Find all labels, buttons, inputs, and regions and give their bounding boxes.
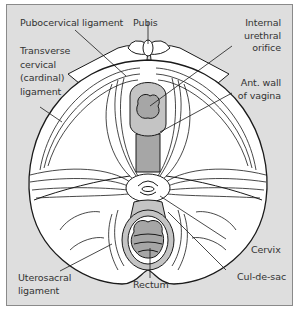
label-line: Internal xyxy=(244,17,281,30)
label-line: urethral xyxy=(244,30,281,43)
label-line: of vagina xyxy=(238,90,281,103)
label-line: (cardinal) xyxy=(20,71,70,85)
urethral-orifice xyxy=(137,94,160,118)
anterior-vaginal-wall xyxy=(136,134,160,172)
label-line: Transverse xyxy=(20,44,70,58)
label-line: cervical xyxy=(20,58,70,72)
label-pubocervical-ligament: Pubocervical ligament xyxy=(20,17,123,30)
label-pubis: Pubis xyxy=(133,17,158,30)
label-cul-de-sac: Cul-de-sac xyxy=(237,271,286,284)
label-rectum: Rectum xyxy=(133,279,169,292)
label-line: ligament xyxy=(20,85,70,99)
label-line: orifice xyxy=(244,42,281,55)
label-line: Uterosacral xyxy=(18,272,71,285)
label-transverse-cervical-ligament: Transverse cervical (cardinal) ligament xyxy=(20,44,70,98)
rectum-lumen xyxy=(131,220,163,258)
label-uterosacral-ligament: Uterosacral ligament xyxy=(18,272,71,297)
label-internal-urethral-orifice: Internal urethral orifice xyxy=(244,17,281,55)
label-cervix: Cervix xyxy=(251,244,281,257)
label-line: ligament xyxy=(18,285,71,298)
label-anterior-wall-of-vagina: Ant. wall of vagina xyxy=(238,77,281,102)
label-line: Ant. wall xyxy=(238,77,281,90)
